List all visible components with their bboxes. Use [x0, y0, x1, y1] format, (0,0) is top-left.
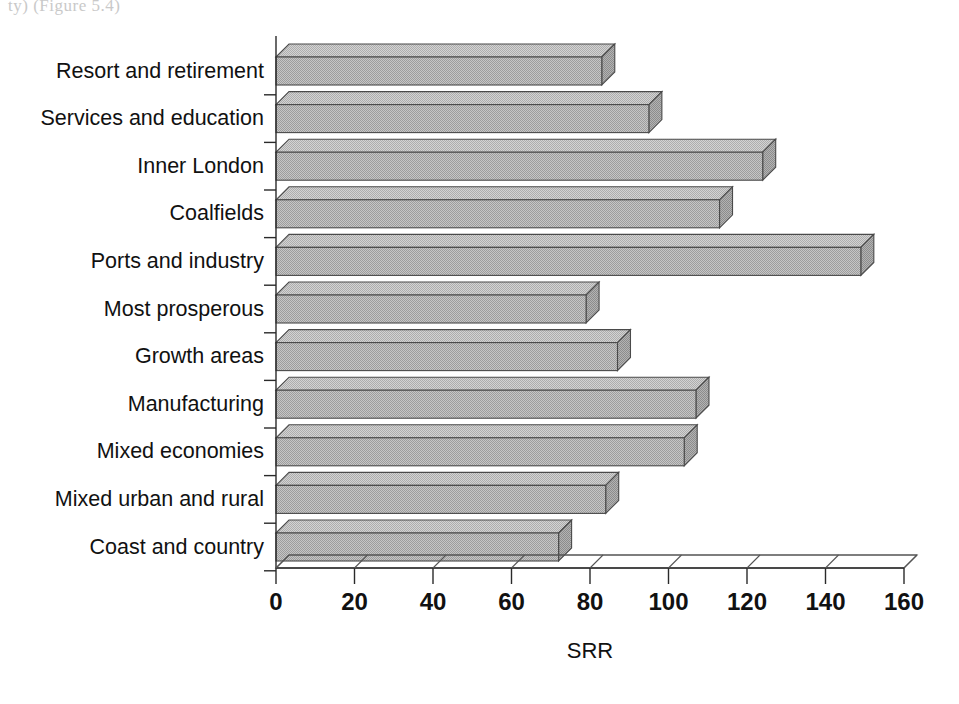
bar-1 — [276, 44, 615, 85]
bar-front-face — [276, 485, 606, 513]
bar-2 — [276, 92, 662, 133]
bar-front-face — [276, 247, 861, 275]
category-label-9: Mixed economies — [97, 439, 264, 463]
x-tick-label-40: 40 — [420, 588, 447, 615]
floor-riser — [904, 555, 917, 568]
category-label-4: Coalfields — [170, 201, 264, 225]
category-label-2: Services and education — [40, 106, 264, 130]
x-tick-label-80: 80 — [577, 588, 604, 615]
bar-6 — [276, 282, 599, 323]
x-tick-label-100: 100 — [648, 588, 688, 615]
bar-front-face — [276, 57, 602, 85]
bar-9 — [276, 425, 697, 466]
bar-top-face — [276, 472, 619, 485]
bar-front-face — [276, 152, 763, 180]
bar-front-face — [276, 390, 696, 418]
bar-front-face — [276, 200, 720, 228]
floor-riser — [590, 555, 603, 568]
bars-layer — [276, 44, 874, 561]
bar-3 — [276, 139, 776, 180]
bar-8 — [276, 377, 709, 418]
bar-5 — [276, 234, 874, 275]
x-tick-label-20: 20 — [341, 588, 368, 615]
bar-front-face — [276, 343, 617, 371]
bar-front-face — [276, 295, 586, 323]
bar-top-face — [276, 92, 662, 105]
category-label-1: Resort and retirement — [56, 59, 264, 83]
bar-10 — [276, 472, 619, 513]
floor-riser — [826, 555, 839, 568]
category-labels-layer: Coast and countryMixed urban and ruralMi… — [40, 59, 264, 559]
category-label-7: Growth areas — [135, 344, 264, 368]
x-tick-label-60: 60 — [498, 588, 525, 615]
bar-top-face — [276, 377, 709, 390]
bar-7 — [276, 330, 630, 371]
tick-labels-layer: 020406080100120140160 — [269, 588, 924, 615]
bar-top-face — [276, 282, 599, 295]
bar-top-face — [276, 234, 874, 247]
x-tick-label-140: 140 — [805, 588, 845, 615]
srr-bar-chart: Coast and countryMixed urban and ruralMi… — [0, 0, 959, 704]
category-label-5: Ports and industry — [91, 249, 265, 273]
x-tick-label-0: 0 — [269, 588, 282, 615]
category-label-6: Most prosperous — [104, 297, 264, 321]
chart-root: ty) (Figure 5.4) Coast and countryMixed … — [0, 0, 959, 704]
bar-top-face — [276, 425, 697, 438]
x-axis-title: SRR — [567, 638, 613, 663]
category-label-10: Mixed urban and rural — [55, 487, 264, 511]
bar-front-face — [276, 438, 684, 466]
category-label-11: Coast and country — [90, 535, 265, 559]
x-tick-label-160: 160 — [884, 588, 924, 615]
bar-top-face — [276, 187, 733, 200]
floor-riser — [747, 555, 760, 568]
bar-top-face — [276, 44, 615, 57]
bar-4 — [276, 187, 733, 228]
bar-front-face — [276, 533, 559, 561]
bar-top-face — [276, 330, 630, 343]
bar-top-face — [276, 139, 776, 152]
floor-riser — [669, 555, 682, 568]
category-label-8: Manufacturing — [128, 392, 264, 416]
x-tick-label-120: 120 — [727, 588, 767, 615]
bar-front-face — [276, 105, 649, 133]
category-label-3: Inner London — [137, 154, 264, 178]
bar-top-face — [276, 520, 572, 533]
